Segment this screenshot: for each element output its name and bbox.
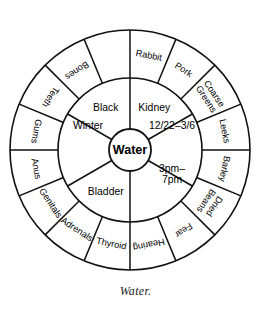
center-hub: Water [109, 129, 151, 171]
inner-ring-segment-label: 12/22–3/6 [149, 120, 195, 131]
wheel-diagram: RabbitPorkCoarseGreensLeeksBarleyDriedBe… [0, 0, 271, 314]
outer-ring-segment: CoarseGreens [194, 78, 227, 114]
center-hub-label: Water [113, 143, 148, 157]
outer-ring-segment-label: Adrenals [59, 215, 95, 244]
inner-ring-divider [68, 161, 112, 187]
outer-ring-segment: Barley [217, 155, 232, 183]
outer-ring-segment-label: Fear [173, 221, 194, 240]
inner-ring-segment-label: Bladder [88, 186, 124, 197]
outer-ring-segment-label: Pork [173, 60, 195, 79]
outer-ring-segment: Hearing [132, 237, 166, 253]
outer-ring-segment-label: Leeks [217, 118, 232, 144]
outer-ring-segment: Anus [29, 157, 43, 180]
inner-ring-segment-label: Black [93, 102, 119, 113]
figure-caption: Water. [0, 284, 271, 299]
inner-ring-segment: Bladder [88, 186, 124, 197]
inner-ring-segment-label: 7pm [162, 174, 182, 185]
water-element-wheel-figure: RabbitPorkCoarseGreensLeeksBarleyDriedBe… [0, 0, 271, 314]
outer-ring-segment: Gums [29, 118, 44, 144]
inner-ring-segment: Kidney [138, 102, 171, 113]
inner-ring-segment: 12/22–3/6 [149, 120, 195, 131]
inner-ring-segment-label: 3pm– [159, 163, 185, 174]
outer-ring-segment: Genitals [37, 186, 64, 220]
outer-ring-segment-label: Barley [217, 155, 232, 183]
outer-ring-segment-label: Hearing [132, 237, 166, 253]
outer-ring-segment: Pork [173, 60, 195, 79]
inner-ring-segment: Black [93, 102, 119, 113]
outer-ring-segment-label: Thyroid [95, 236, 127, 252]
outer-ring-segment-label: Rabbit [135, 48, 163, 63]
outer-ring-segment: Fear [173, 221, 194, 240]
outer-ring-segment-label: Gums [29, 118, 44, 144]
outer-ring-segment-label: Anus [29, 157, 43, 180]
outer-ring-segment: Adrenals [59, 215, 95, 244]
outer-ring-segment-label: Teeth [40, 85, 61, 109]
inner-ring-segment: Winter [73, 120, 104, 131]
inner-ring-segment: 3pm–7pm [159, 163, 185, 185]
outer-ring-segment-label: Bones [63, 59, 91, 82]
inner-ring-segment-label: Kidney [138, 102, 171, 113]
outer-ring-segment: Bones [63, 59, 91, 82]
outer-ring-segment: Rabbit [135, 48, 163, 63]
outer-ring-segment: Teeth [40, 85, 61, 109]
inner-ring-segment-label: Winter [73, 120, 104, 131]
outer-ring-segment: Leeks [217, 118, 232, 144]
outer-ring-segment: DriedBeans [195, 187, 226, 220]
outer-ring-segment: Thyroid [95, 236, 127, 252]
outer-ring-segment-label: Genitals [37, 186, 64, 220]
